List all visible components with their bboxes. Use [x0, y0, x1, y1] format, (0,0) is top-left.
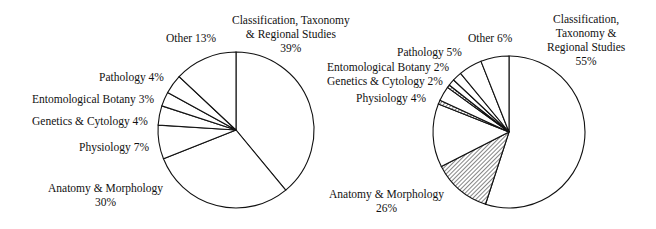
left-label-classification: Classification, Taxonomy & Regional Stud…: [232, 13, 350, 55]
right-label-genetics: Genetics & Cytology 2%: [327, 74, 443, 88]
right-label-physiology: Physiology 4%: [356, 91, 426, 105]
left-label-physiology: Physiology 7%: [79, 140, 149, 154]
right-label-other: Other 6%: [468, 31, 512, 45]
pie-chart-right: [433, 56, 585, 208]
left-label-entomological: Entomological Botany 3%: [32, 92, 154, 106]
right-label-classification: Classification, Taxonomy & Regional Stud…: [547, 12, 625, 68]
left-label-anatomy: Anatomy & Morphology 30%: [48, 181, 163, 209]
left-label-other: Other 13%: [166, 31, 216, 45]
right-label-pathology: Pathology 5%: [397, 45, 462, 59]
left-label-pathology: Pathology 4%: [99, 70, 164, 84]
left-label-genetics: Genetics & Cytology 4%: [32, 114, 148, 128]
right-label-anatomy: Anatomy & Morphology 26%: [329, 187, 444, 215]
right-label-entomological: Entomological Botany 2%: [327, 60, 449, 74]
pie-chart-left: [158, 52, 314, 208]
